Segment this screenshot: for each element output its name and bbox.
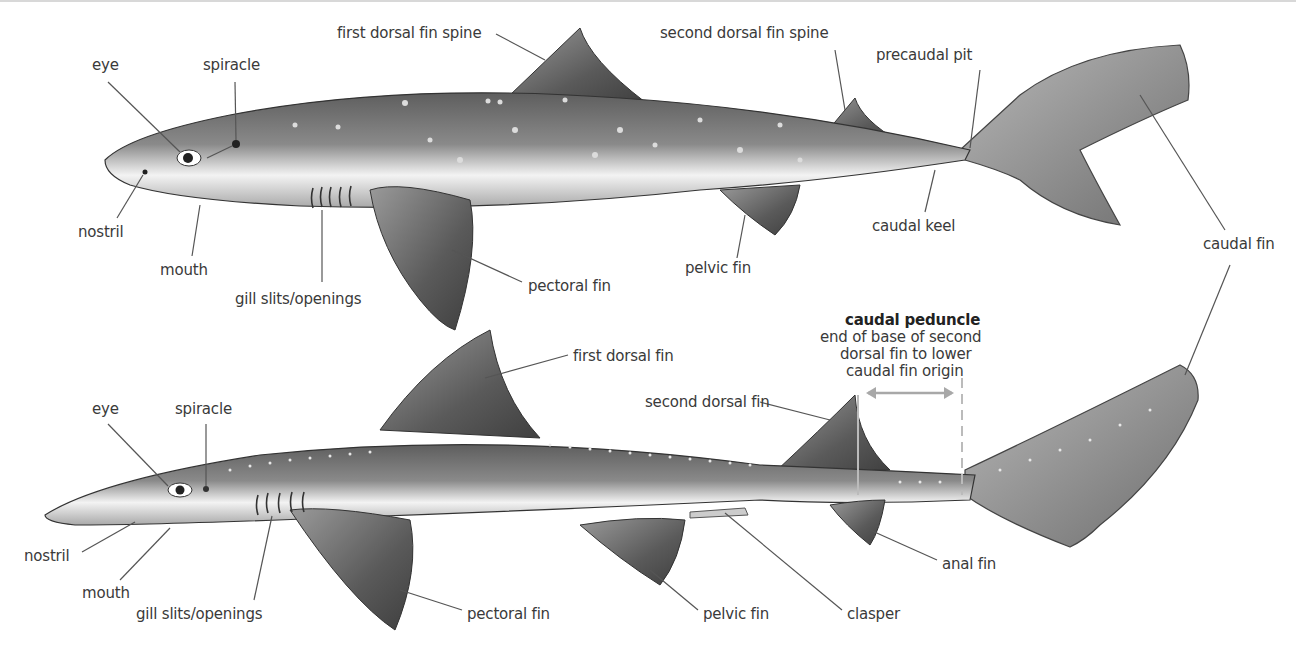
upper-eye-label: eye bbox=[92, 56, 119, 74]
lower-pelvic-fin-label: pelvic fin bbox=[703, 605, 769, 623]
upper-pelvic-fin-label: pelvic fin bbox=[685, 259, 751, 277]
lower-nostril-label: nostril bbox=[24, 547, 69, 565]
upper-first-dorsal-fin-spine-label: first dorsal fin spine bbox=[337, 24, 481, 42]
caudal-peduncle-line-1: end of base of second bbox=[820, 328, 981, 346]
upper-spiracle-label: spiracle bbox=[203, 56, 260, 74]
upper-caudal-fin-label: caudal fin bbox=[1203, 235, 1275, 253]
upper-caudal-keel-label: caudal keel bbox=[872, 217, 955, 235]
upper-shark bbox=[105, 28, 1189, 330]
lower-first-dorsal-fin-label: first dorsal fin bbox=[573, 347, 674, 365]
lower-anal-fin-label: anal fin bbox=[942, 555, 996, 573]
lower-shark bbox=[45, 330, 1198, 630]
caudal-peduncle-title: caudal peduncle bbox=[845, 311, 980, 329]
lower-gill-slits-label: gill slits/openings bbox=[136, 605, 262, 623]
upper-gill-slits-label: gill slits/openings bbox=[235, 290, 361, 308]
shark-anatomy-diagram: eye spiracle first dorsal fin spine seco… bbox=[0, 0, 1296, 652]
upper-nostril-label: nostril bbox=[78, 223, 123, 241]
lower-mouth-label: mouth bbox=[82, 584, 130, 602]
caudal-peduncle-line-3: caudal fin origin bbox=[846, 362, 964, 380]
upper-pectoral-fin-label: pectoral fin bbox=[528, 277, 611, 295]
lower-pectoral-fin-label: pectoral fin bbox=[467, 605, 550, 623]
lower-eye-label: eye bbox=[92, 400, 119, 418]
lower-clasper-label: clasper bbox=[847, 605, 900, 623]
upper-mouth-label: mouth bbox=[160, 261, 208, 279]
upper-precaudal-pit-label: precaudal pit bbox=[876, 46, 972, 64]
lower-second-dorsal-fin-label: second dorsal fin bbox=[645, 393, 770, 411]
lower-spiracle-label: spiracle bbox=[175, 400, 232, 418]
shark-illustrations bbox=[0, 0, 1296, 652]
upper-second-dorsal-fin-spine-label: second dorsal fin spine bbox=[660, 24, 828, 42]
caudal-peduncle-line-2: dorsal fin to lower bbox=[840, 345, 972, 363]
